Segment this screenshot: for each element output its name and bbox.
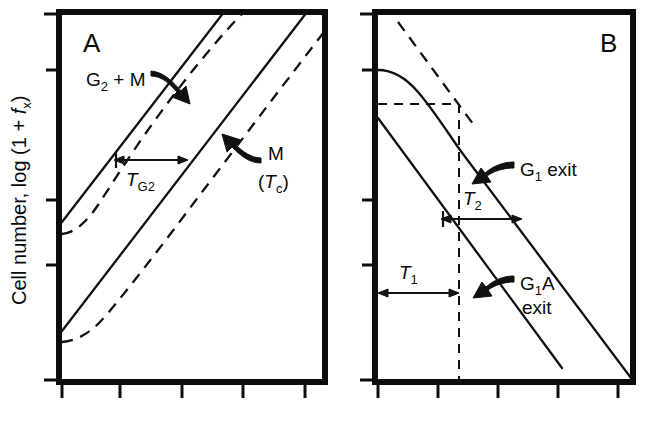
y-axis-label-close: ) xyxy=(8,96,30,103)
panel-b: B T2 xyxy=(360,12,634,398)
svg-text:Cell number, log (1 + fx): Cell number, log (1 + fx) xyxy=(8,96,34,305)
panel-a-tg2-label: TG2 xyxy=(126,169,155,194)
panel-b-g1a-exit-base: G xyxy=(520,273,535,294)
panel-b-g1a-exit-label-line1: G1A xyxy=(520,273,555,298)
panel-b-t2-label: T2 xyxy=(463,188,482,213)
panel-b-plot-frame xyxy=(375,12,633,382)
panel-b-g1a-exit-rest: A xyxy=(542,273,555,294)
two-panel-figure: Cell number, log (1 + fx) xyxy=(0,0,645,426)
panel-b-letter: B xyxy=(600,28,617,58)
panel-b-g1-exit-sub: 1 xyxy=(535,169,542,184)
panel-b-t1-arrowhead-left xyxy=(378,289,388,297)
panel-b-g1-exit-rest: exit xyxy=(542,159,578,180)
panel-b-t2-label-sub: 2 xyxy=(475,198,482,213)
y-axis-label-main: Cell number, log (1 + xyxy=(8,114,30,305)
panel-b-t1-arrowhead-right xyxy=(449,289,459,297)
panel-a-m-callout: M (Tc) xyxy=(222,134,289,196)
panel-b-t1-label: T1 xyxy=(399,262,418,287)
panel-b-g1-exit-extrapolation xyxy=(398,22,476,128)
panel-a: A TG2 G2 + M xyxy=(44,12,325,398)
panel-b-g1a-exit-label-line2: exit xyxy=(522,297,552,318)
panel-b-t1-measure: T1 xyxy=(378,262,459,297)
panel-a-letter: A xyxy=(83,28,101,58)
panel-a-tg2-arrowhead-right xyxy=(178,156,188,164)
panel-a-g2m-label: G2 + M xyxy=(86,69,146,94)
panel-a-tg2-label-sub: G2 xyxy=(138,179,155,194)
panel-a-g2m-label-base: G xyxy=(86,69,101,90)
panel-b-g1-exit-arrow-icon xyxy=(472,162,514,184)
panel-a-m-label: M xyxy=(268,143,284,164)
panel-a-tc-label: (Tc) xyxy=(258,171,289,196)
panel-a-tc-close: ) xyxy=(282,171,288,192)
panel-b-g1-exit-curve xyxy=(378,70,634,382)
panel-a-tg2-measure: TG2 xyxy=(114,152,188,194)
panel-b-t2-arrowhead-right xyxy=(512,215,522,223)
panel-a-plot-frame xyxy=(59,12,325,382)
panel-b-g1-exit-callout: G1 exit xyxy=(472,159,578,184)
panel-b-g1-exit-base: G xyxy=(520,159,535,180)
panel-a-g2m-label-rest: + M xyxy=(108,69,145,90)
figure-container: Cell number, log (1 + fx) xyxy=(0,0,645,426)
panel-b-g1-exit-label: G1 exit xyxy=(520,159,578,184)
panel-b-g1a-exit-sub: 1 xyxy=(535,283,542,298)
panel-b-t1-label-sub: 1 xyxy=(411,272,418,287)
panel-b-g1a-exit-callout: G1A exit xyxy=(473,273,555,318)
panel-b-g1a-exit-line xyxy=(378,118,562,368)
panel-a-g2m-label-sub: 2 xyxy=(101,79,108,94)
panel-a-g2m-callout: G2 + M xyxy=(86,69,190,104)
y-axis-label: Cell number, log (1 + fx) xyxy=(8,96,34,305)
